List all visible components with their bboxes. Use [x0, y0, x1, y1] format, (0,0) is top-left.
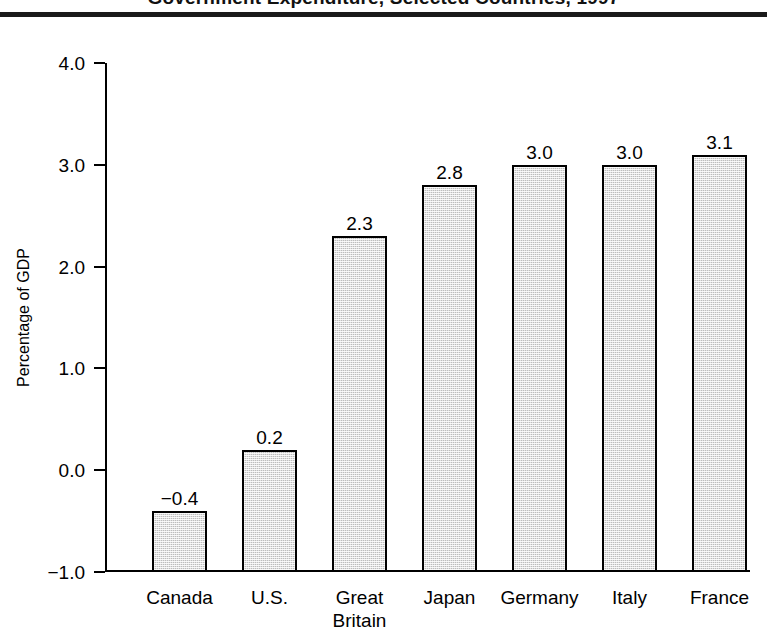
- y-axis-line: [105, 63, 107, 572]
- x-axis-label: France: [660, 586, 767, 609]
- y-tick-label: 4.0: [59, 54, 85, 73]
- bar: 2.3: [332, 236, 387, 572]
- bar: 3.1: [692, 155, 747, 572]
- bar-value-label: 0.2: [256, 428, 282, 447]
- bar: 0.2: [242, 450, 297, 572]
- y-tick: −1.0: [94, 571, 105, 573]
- plot-area: 4.03.02.01.00.0−1.0 −0.40.22.32.83.03.03…: [105, 63, 750, 572]
- y-axis-title: Percentage of GDP: [14, 63, 34, 572]
- y-tick: 2.0: [94, 266, 105, 268]
- y-tick: 1.0: [94, 367, 105, 369]
- bar: 3.0: [512, 165, 567, 572]
- bar: −0.4: [152, 511, 207, 572]
- bar-value-label: 3.0: [526, 143, 552, 162]
- bar-chart: Percentage of GDP 4.03.02.01.00.0−1.0 −0…: [0, 17, 767, 630]
- page-title: Government Expenditure, Selected Countri…: [0, 0, 767, 9]
- bar-value-label: 3.1: [706, 133, 732, 152]
- y-tick: 0.0: [94, 469, 105, 471]
- bar: 3.0: [602, 165, 657, 572]
- bar-value-label: 2.8: [436, 163, 462, 182]
- y-tick-label: −1.0: [47, 563, 85, 582]
- bar: 2.8: [422, 185, 477, 572]
- figure-title-strip: Government Expenditure, Selected Countri…: [0, 0, 767, 11]
- bar-value-label: −0.4: [161, 489, 199, 508]
- y-tick-label: 3.0: [59, 155, 85, 174]
- bar-value-label: 2.3: [346, 214, 372, 233]
- y-tick-label: 0.0: [59, 461, 85, 480]
- y-tick: 4.0: [94, 62, 105, 64]
- y-tick-label: 1.0: [59, 359, 85, 378]
- y-tick: 3.0: [94, 164, 105, 166]
- bar-value-label: 3.0: [616, 143, 642, 162]
- y-tick-label: 2.0: [59, 257, 85, 276]
